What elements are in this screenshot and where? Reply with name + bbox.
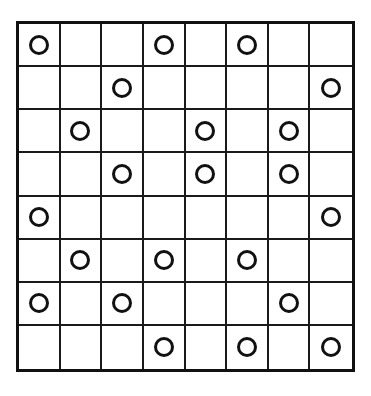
grid-cell[interactable] bbox=[186, 326, 228, 369]
grid-cell[interactable] bbox=[227, 67, 269, 110]
grid-cell[interactable] bbox=[102, 197, 144, 240]
grid-cell[interactable] bbox=[102, 153, 144, 196]
grid-cell[interactable] bbox=[144, 24, 186, 67]
grid-cell[interactable] bbox=[310, 283, 352, 326]
grid-cell[interactable] bbox=[186, 110, 228, 153]
circle-icon bbox=[279, 121, 299, 141]
circle-icon bbox=[321, 207, 341, 227]
circle-icon bbox=[112, 78, 132, 98]
grid-cell[interactable] bbox=[144, 197, 186, 240]
grid-cell[interactable] bbox=[310, 240, 352, 283]
grid-cell[interactable] bbox=[102, 110, 144, 153]
grid-cell[interactable] bbox=[144, 240, 186, 283]
grid-cell[interactable] bbox=[61, 110, 103, 153]
grid-cell[interactable] bbox=[269, 326, 311, 369]
grid-cell[interactable] bbox=[19, 110, 61, 153]
grid-cell[interactable] bbox=[19, 67, 61, 110]
grid-cell[interactable] bbox=[144, 110, 186, 153]
grid-cell[interactable] bbox=[61, 24, 103, 67]
circle-icon bbox=[112, 164, 132, 184]
grid-cell[interactable] bbox=[186, 197, 228, 240]
grid-cell[interactable] bbox=[227, 197, 269, 240]
grid-cell[interactable] bbox=[227, 24, 269, 67]
grid-cell[interactable] bbox=[19, 240, 61, 283]
grid-cell[interactable] bbox=[144, 67, 186, 110]
circle-icon bbox=[29, 293, 49, 313]
grid-cell[interactable] bbox=[102, 326, 144, 369]
grid-cell[interactable] bbox=[269, 24, 311, 67]
grid-cell[interactable] bbox=[61, 197, 103, 240]
grid-cell[interactable] bbox=[102, 24, 144, 67]
grid-cell[interactable] bbox=[310, 110, 352, 153]
circle-icon bbox=[154, 250, 174, 270]
grid-cell[interactable] bbox=[310, 153, 352, 196]
circle-icon bbox=[279, 293, 299, 313]
circle-icon bbox=[237, 250, 257, 270]
circle-icon bbox=[321, 337, 341, 357]
grid-cell[interactable] bbox=[19, 326, 61, 369]
grid-cell[interactable] bbox=[310, 24, 352, 67]
grid-cell[interactable] bbox=[269, 153, 311, 196]
grid-cell[interactable] bbox=[144, 153, 186, 196]
circle-icon bbox=[195, 121, 215, 141]
grid-cell[interactable] bbox=[269, 67, 311, 110]
grid-cell[interactable] bbox=[186, 283, 228, 326]
circle-icon bbox=[154, 337, 174, 357]
puzzle-root bbox=[0, 0, 371, 396]
grid-cell[interactable] bbox=[227, 326, 269, 369]
grid-cell[interactable] bbox=[186, 24, 228, 67]
grid-cell[interactable] bbox=[186, 240, 228, 283]
grid-cell[interactable] bbox=[227, 240, 269, 283]
grid-cell[interactable] bbox=[186, 153, 228, 196]
grid-cell[interactable] bbox=[227, 153, 269, 196]
grid-cell[interactable] bbox=[61, 326, 103, 369]
circle-icon bbox=[154, 35, 174, 55]
circle-icon bbox=[29, 207, 49, 227]
grid-cell[interactable] bbox=[269, 197, 311, 240]
circle-icon bbox=[70, 121, 90, 141]
grid-cell[interactable] bbox=[269, 110, 311, 153]
circle-icon bbox=[279, 164, 299, 184]
grid-cell[interactable] bbox=[269, 283, 311, 326]
grid-cell[interactable] bbox=[186, 67, 228, 110]
grid-cell[interactable] bbox=[310, 326, 352, 369]
grid-cell[interactable] bbox=[19, 24, 61, 67]
grid-cell[interactable] bbox=[61, 283, 103, 326]
grid-cell[interactable] bbox=[227, 110, 269, 153]
circle-icon bbox=[112, 293, 132, 313]
grid-cell[interactable] bbox=[102, 283, 144, 326]
grid-cell[interactable] bbox=[19, 283, 61, 326]
grid-cell[interactable] bbox=[310, 67, 352, 110]
circle-icon bbox=[29, 35, 49, 55]
grid-cell[interactable] bbox=[19, 153, 61, 196]
grid-cell[interactable] bbox=[102, 67, 144, 110]
grid-cell[interactable] bbox=[144, 283, 186, 326]
grid-cell[interactable] bbox=[310, 197, 352, 240]
grid-cell[interactable] bbox=[227, 283, 269, 326]
circle-icon bbox=[70, 250, 90, 270]
circle-grid-board[interactable] bbox=[16, 21, 355, 372]
circle-icon bbox=[321, 78, 341, 98]
circle-icon bbox=[195, 164, 215, 184]
grid-cell[interactable] bbox=[269, 240, 311, 283]
grid-cell[interactable] bbox=[61, 67, 103, 110]
grid-cell[interactable] bbox=[19, 197, 61, 240]
grid-cell[interactable] bbox=[61, 240, 103, 283]
circle-icon bbox=[237, 337, 257, 357]
grid-cell[interactable] bbox=[144, 326, 186, 369]
circle-icon bbox=[237, 35, 257, 55]
grid-cell[interactable] bbox=[61, 153, 103, 196]
grid-cell[interactable] bbox=[102, 240, 144, 283]
